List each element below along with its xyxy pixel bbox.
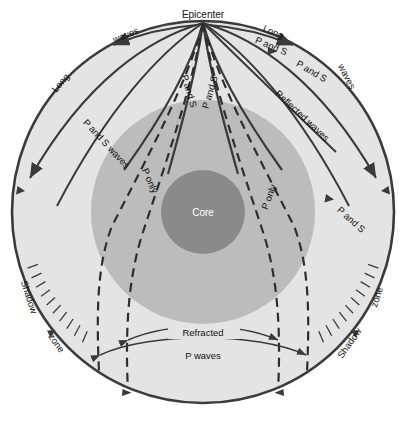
earth-cross-section-svg: Epicenter Core Long waves Long waves P a… xyxy=(0,0,407,424)
p-waves-label: P waves xyxy=(185,350,221,361)
p-waves-label-group: P waves xyxy=(170,348,238,362)
epicenter-label: Epicenter xyxy=(182,9,225,20)
refracted-label: Refracted xyxy=(182,327,223,338)
core-label: Core xyxy=(192,207,214,218)
seismic-diagram-figure: Epicenter Core Long waves Long waves P a… xyxy=(0,0,407,424)
refracted-label-group: Refracted xyxy=(168,325,240,339)
